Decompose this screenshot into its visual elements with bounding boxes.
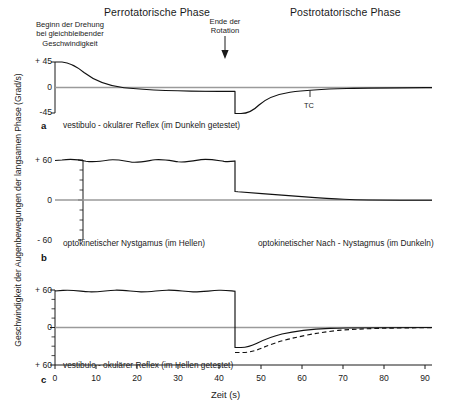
panel-a-ytick-top: + 45 xyxy=(22,56,52,66)
rotation-start-note: Beginn der Drehung bei gleichbleibender … xyxy=(10,20,130,48)
rotation-end-note: Ende der Rotation xyxy=(196,17,254,36)
panel-a-ytick-bottom: -45 xyxy=(22,107,52,117)
panel-c-ytick-bottom: + 60 xyxy=(22,360,52,370)
xtick-10: 10 xyxy=(84,373,108,383)
rotation-start-note-line-3: Geschwindigkeit xyxy=(10,39,130,48)
panel-c-caption: vestibulo - okulärer Reflex (im Hellen g… xyxy=(63,360,233,370)
panel-b-caption-right: optokinetischer Nach - Nystagmus (im Dun… xyxy=(258,238,434,248)
xtick-0: 0 xyxy=(43,373,67,383)
xtick-50: 50 xyxy=(249,373,273,383)
panel-b-letter: b xyxy=(41,252,47,263)
panel-b-caption-left: optokinetischer Nystgamus (im Hellen) xyxy=(63,238,205,248)
xtick-60: 60 xyxy=(290,373,314,383)
panel-c-ytick-top: + 60 xyxy=(22,285,52,295)
panel-b-ytick-top: + 60 xyxy=(22,155,52,165)
panel-a-plot xyxy=(0,50,451,130)
xtick-70: 70 xyxy=(331,373,355,383)
panel-a-ytick-zero: 0 xyxy=(22,82,52,92)
rotation-end-note-line-1: Ende der xyxy=(196,17,254,26)
panel-b-plot xyxy=(0,150,451,250)
xtick-40: 40 xyxy=(207,373,231,383)
postrotatory-phase-title: Postrotatorische Phase xyxy=(290,6,401,18)
xtick-30: 30 xyxy=(166,373,190,383)
rotation-start-note-line-2: bei gleichbleibender xyxy=(10,29,130,38)
panel-a-caption: vestibulo - okulärer Reflex (im Dunkeln … xyxy=(63,120,240,130)
panel-a-letter: a xyxy=(41,120,46,131)
panel-c-ytick-zero: 0 xyxy=(22,322,52,332)
xtick-90: 90 xyxy=(413,373,437,383)
rotation-end-note-line-2: Rotation xyxy=(196,26,254,35)
panel-b-ytick-bottom: - 60 xyxy=(22,235,52,245)
figure-root: Perrotatorische Phase Postrotatorische P… xyxy=(0,0,451,410)
rotation-start-note-line-1: Beginn der Drehung xyxy=(10,20,130,29)
panel-a-tc-annotation: TC xyxy=(304,101,314,110)
x-axis-label: Zeit (s) xyxy=(0,389,451,400)
panel-b-ytick-zero: 0 xyxy=(22,195,52,205)
xtick-80: 80 xyxy=(372,373,396,383)
xtick-20: 20 xyxy=(125,373,149,383)
perrotatory-phase-title: Perrotatorische Phase xyxy=(104,6,210,18)
